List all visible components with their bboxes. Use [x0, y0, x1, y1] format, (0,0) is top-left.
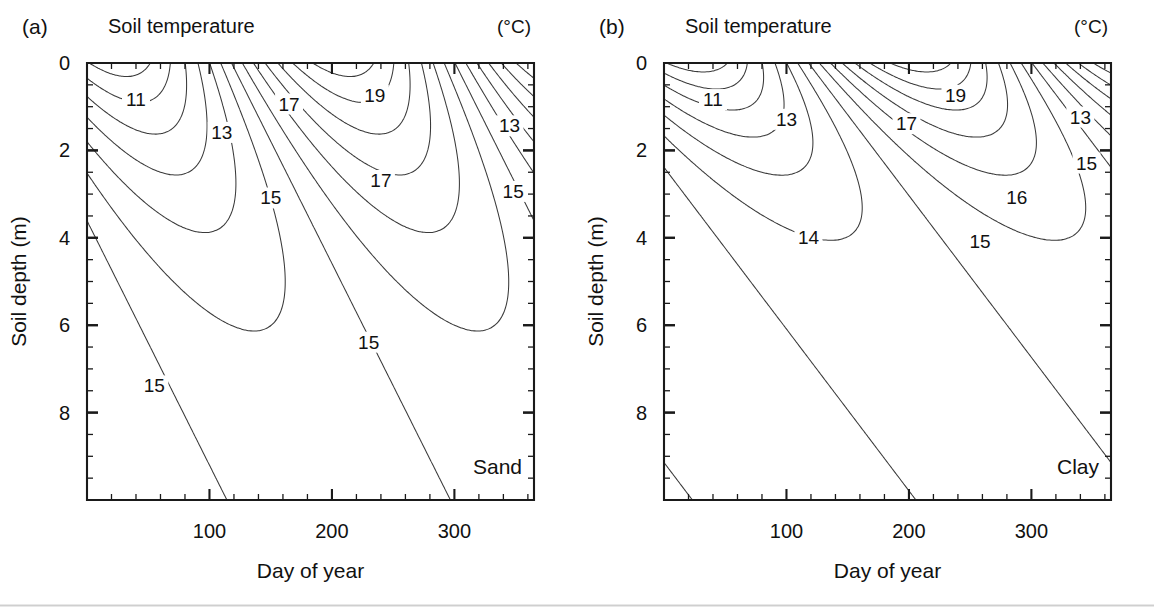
contour-label: 17 [896, 113, 917, 134]
y-tick-label: 6 [636, 314, 647, 336]
contour-label: 15 [358, 332, 379, 353]
y-tick-label: 2 [59, 139, 70, 161]
contour-line-15 [809, 63, 1111, 463]
soil-type-label: Clay [1057, 455, 1100, 478]
y-tick-label: 0 [636, 52, 647, 74]
contour-line-14 [87, 63, 285, 331]
panel-tag: (a) [22, 15, 48, 38]
x-tick-label: 100 [193, 520, 226, 542]
contour-label: 16 [1006, 187, 1027, 208]
panel-tag: (b) [599, 15, 625, 38]
panel-title: Soil temperature [685, 15, 832, 37]
contour-label: 19 [945, 85, 966, 106]
soil-type-label: Sand [473, 455, 522, 478]
x-tick-label: 100 [770, 520, 803, 542]
x-tick-label: 200 [892, 520, 925, 542]
x-tick-label: 300 [438, 520, 471, 542]
x-axis-label: Day of year [257, 559, 364, 582]
contour-label: 13 [1070, 107, 1091, 128]
contour-label: 13 [499, 115, 520, 136]
x-tick-label: 300 [1015, 520, 1048, 542]
contour-label: 13 [776, 109, 797, 130]
contour-label: 15 [144, 375, 165, 396]
figure-root: (a)Soil temperature(°C)11131719171315151… [0, 0, 1154, 607]
y-axis-label: Soil depth (m) [584, 216, 607, 347]
y-tick-label: 4 [636, 227, 647, 249]
contour-line-10 [1093, 63, 1111, 73]
contour-line-15 [232, 63, 451, 500]
panel-clay: (b)Soil temperature(°C)11131719131516141… [577, 0, 1154, 607]
contour-line-11 [501, 63, 534, 97]
contour-label: 11 [703, 89, 723, 110]
x-axis-label: Day of year [834, 559, 941, 582]
contour-label: 15 [503, 181, 524, 202]
panel-sand: (a)Soil temperature(°C)11131719171315151… [0, 0, 577, 607]
y-tick-label: 4 [59, 227, 70, 249]
contour-line-18 [265, 63, 430, 175]
contour-label: 17 [278, 94, 299, 115]
contour-label: 11 [126, 89, 146, 110]
unit-label: (°C) [497, 16, 531, 37]
contour-line-21 [313, 63, 374, 77]
unit-label: (°C) [1074, 16, 1108, 37]
x-axis: 100200300 [688, 63, 1104, 542]
contour-group [87, 63, 534, 500]
x-axis: 100200300 [111, 63, 527, 542]
y-axis-label: Soil depth (m) [7, 216, 30, 347]
contour-line-9 [89, 63, 150, 77]
contour-label: 15 [1076, 153, 1097, 174]
y-tick-label: 2 [636, 139, 647, 161]
contour-line-14 [664, 63, 862, 240]
contour-label: 15 [969, 231, 990, 252]
contour-line-10 [516, 63, 534, 78]
contour-line-15 [664, 167, 916, 500]
y-axis: 02468 [59, 52, 534, 478]
y-tick-label: 6 [59, 314, 70, 336]
contour-label: 14 [798, 227, 820, 248]
contour-line-12 [87, 63, 207, 175]
contour-line-21 [890, 63, 951, 72]
contour-label: 15 [260, 187, 281, 208]
y-axis: 02468 [636, 52, 1111, 478]
contour-line-15 [87, 221, 227, 500]
contour-line-13 [87, 63, 236, 233]
contour-line-11 [1078, 63, 1111, 85]
contour-group [664, 63, 1111, 500]
contour-line-9 [666, 63, 727, 72]
panel-title: Soil temperature [108, 15, 255, 37]
y-tick-label: 0 [59, 52, 70, 74]
contour-label: 19 [364, 85, 385, 106]
contour-label: 13 [211, 122, 232, 143]
contour-line-18 [842, 63, 1007, 137]
plot-frame [664, 63, 1111, 500]
y-tick-label: 8 [636, 402, 647, 424]
contour-label: 17 [370, 170, 391, 191]
plot-frame [87, 63, 534, 500]
y-tick-label: 8 [59, 402, 70, 424]
x-tick-label: 200 [315, 520, 348, 542]
